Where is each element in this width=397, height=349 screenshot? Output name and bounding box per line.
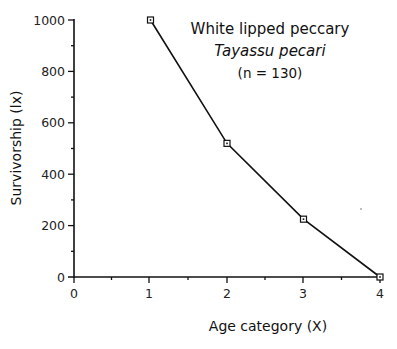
- svg-text:1: 1: [145, 286, 153, 301]
- svg-text:0: 0: [70, 286, 78, 301]
- svg-text:4: 4: [376, 286, 384, 301]
- y-axis-title: Survivorship (lx): [8, 91, 24, 206]
- y-ticks: [68, 20, 74, 251]
- x-ticks: [74, 277, 380, 283]
- x-tick-labels: 0 1 2 3 4: [70, 286, 384, 301]
- marker-center-dot: [379, 276, 381, 278]
- survivorship-chart: 1000 800 600 400 200 0 0 1 2 3 4 Age cat…: [0, 0, 397, 349]
- marker-center-dot: [226, 143, 228, 145]
- common-name: White lipped peccary: [191, 20, 350, 38]
- sample-size: (n = 130): [238, 65, 303, 81]
- svg-text:200: 200: [41, 218, 65, 233]
- svg-text:3: 3: [299, 286, 307, 301]
- svg-text:2: 2: [223, 286, 231, 301]
- marker-center-dot: [150, 19, 152, 21]
- svg-text:400: 400: [41, 167, 65, 182]
- species-annotation: White lipped peccary Tayassu pecari (n =…: [191, 20, 350, 81]
- svg-text:600: 600: [41, 115, 65, 130]
- svg-text:1000: 1000: [33, 13, 65, 28]
- x-axis-title: Age category (X): [209, 318, 327, 334]
- scan-speck: [360, 208, 362, 210]
- y-tick-labels: 1000 800 600 400 200 0: [33, 13, 65, 285]
- svg-text:800: 800: [41, 64, 65, 79]
- scientific-name: Tayassu pecari: [214, 42, 326, 60]
- marker-center-dot: [303, 218, 305, 220]
- svg-text:0: 0: [57, 270, 65, 285]
